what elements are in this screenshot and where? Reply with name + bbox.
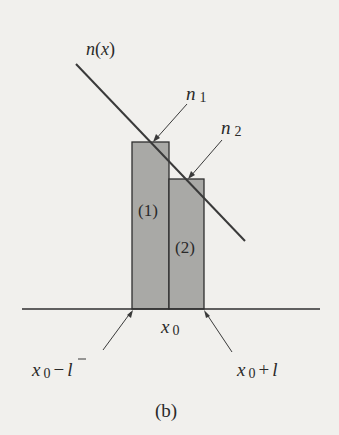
n2-arrow [190, 140, 222, 177]
right-edge-arrow [206, 313, 232, 352]
right-edge-label: x0+l [236, 359, 277, 381]
diagram: n(x) n1 n2 (1) (2) x0 x0−l x0+l (b) [0, 0, 339, 435]
n2-label: n2 [221, 117, 242, 139]
left-edge-label: x0−l [31, 359, 72, 381]
curve-label: n(x) [86, 39, 115, 60]
n1-label: n1 [186, 83, 207, 105]
bar-1-label: (1) [138, 201, 158, 220]
left-edge-arrow [103, 312, 131, 350]
n1-arrow [155, 104, 187, 140]
bar-2-label: (2) [175, 238, 195, 257]
bar-1 [132, 142, 169, 309]
x0-label: x0 [160, 316, 179, 338]
figure-caption: (b) [155, 400, 177, 422]
